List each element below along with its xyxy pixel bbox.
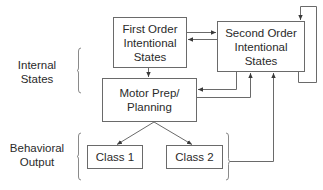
arrow-motor-to-class1: [117, 122, 154, 145]
first-order-line2: Intentional: [123, 36, 176, 50]
behavioral-output-label-line2: Output: [2, 155, 72, 169]
second-order-line1: Second Order: [225, 26, 297, 40]
second-order-line2: Intentional: [234, 40, 287, 54]
class-2-label: Class 2: [175, 150, 213, 164]
second-order-line3: States: [245, 54, 278, 68]
arrow-motor-to-class2: [154, 122, 192, 145]
brace-behavioral-output-left: [77, 133, 81, 180]
brace-behavioral-output-right: [226, 133, 230, 180]
internal-states-label: Internal States: [6, 58, 68, 86]
motor-line1: Motor Prep/: [119, 86, 179, 100]
behavioral-output-label: Behavioral Output: [2, 141, 72, 169]
second-order-states-box: Second Order Intentional States: [217, 21, 305, 72]
motor-line2: Planning: [127, 100, 172, 114]
arrow-motor-to-second: [197, 73, 251, 98]
first-order-states-box: First Order Intentional States: [113, 17, 187, 68]
class-1-box: Class 1: [87, 145, 143, 169]
class-1-label: Class 1: [96, 150, 134, 164]
arrow-second-to-motor: [198, 72, 237, 90]
internal-states-label-line1: Internal: [6, 58, 68, 72]
behavioral-output-label-line1: Behavioral: [2, 141, 72, 155]
internal-states-label-line2: States: [6, 72, 68, 86]
first-order-line1: First Order: [123, 22, 178, 36]
class-2-box: Class 2: [166, 145, 223, 169]
motor-prep-planning-box: Motor Prep/ Planning: [102, 78, 197, 122]
flow-diagram: Internal States Behavioral Output First …: [0, 0, 323, 190]
brace-internal-states: [77, 48, 81, 93]
first-order-line3: States: [134, 50, 167, 64]
